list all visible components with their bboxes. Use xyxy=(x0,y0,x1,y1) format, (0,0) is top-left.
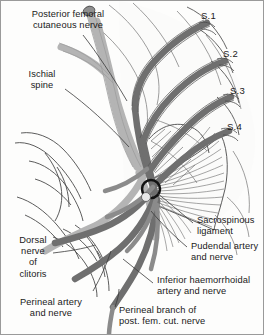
anatomical-figure: Posterior femoral cutaneous nerve Ischia… xyxy=(0,0,264,335)
nerve-cross-section xyxy=(142,193,151,202)
label-sacral-root-s3: S.3 xyxy=(230,85,245,96)
pubic-ramus-outline xyxy=(15,133,91,259)
label-sacral-root-s4: S.4 xyxy=(227,121,242,132)
label-sacral-root-s1: S.1 xyxy=(201,10,216,21)
label-sacral-root-s2: S.2 xyxy=(223,48,238,59)
